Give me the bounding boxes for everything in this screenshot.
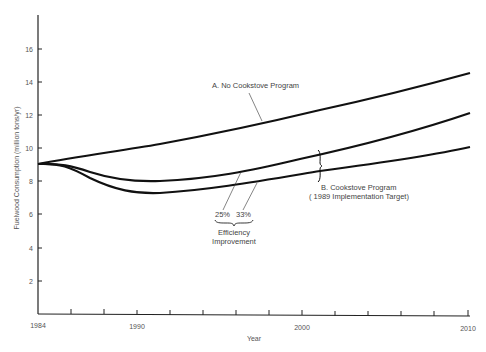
y-tick-2: 2 — [29, 278, 33, 285]
fuelwood-chart: 2 4 6 8 10 12 14 16 1984 1990 2000 2010 … — [0, 0, 486, 352]
label-curve-b-line1: B. Cookstove Program — [321, 183, 396, 192]
label-efficiency: Efficiency — [218, 228, 250, 237]
x-tick-2000: 2000 — [294, 324, 310, 331]
brace-efficiency — [215, 220, 253, 226]
pointer-curve-a — [249, 93, 262, 121]
x-tick-2010: 2010 — [460, 325, 476, 332]
y-tick-12: 12 — [25, 112, 33, 119]
y-axis-title: Fuelwood Consumption (million tons/yr) — [13, 107, 21, 230]
y-tick-8: 8 — [29, 178, 33, 185]
y-tick-14: 14 — [25, 79, 33, 86]
x-tick-1990: 1990 — [129, 323, 145, 330]
y-tick-4: 4 — [29, 245, 33, 252]
y-tick-labels: 2 4 6 8 10 12 14 16 — [25, 46, 33, 285]
y-tick-6: 6 — [29, 211, 33, 218]
x-tick-labels: 1984 1990 2000 2010 — [30, 322, 476, 332]
x-axis — [38, 314, 470, 316]
label-25pct: 25% — [215, 210, 230, 219]
label-curve-b-line2: ( 1989 Implementation Target) — [309, 192, 409, 201]
pointer-25pct — [223, 172, 241, 210]
label-33pct: 33% — [236, 210, 251, 219]
x-axis-title: Year — [247, 335, 262, 342]
y-tick-10: 10 — [25, 145, 33, 152]
y-tick-16: 16 — [25, 46, 33, 53]
pointer-33pct — [243, 183, 257, 210]
label-curve-a: A. No Cookstove Program — [212, 81, 299, 90]
label-improvement: Improvement — [212, 237, 257, 246]
curve-b-25pct — [38, 113, 470, 181]
x-tick-1984: 1984 — [30, 322, 46, 329]
